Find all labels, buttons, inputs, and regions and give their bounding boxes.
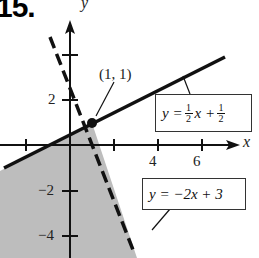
eq-mid: x + bbox=[195, 105, 216, 122]
y-tick-label-neg2: −2 bbox=[38, 182, 54, 199]
y-axis-label: y bbox=[81, 0, 88, 12]
x-tick-label-4: 4 bbox=[149, 153, 157, 170]
dashed-eq-leader-line bbox=[152, 209, 170, 230]
solid-line-equation: y = 1 2 x + 1 2 bbox=[155, 94, 252, 132]
dashed-line-equation: y = −2x + 3 bbox=[142, 178, 246, 210]
fraction: 1 2 bbox=[185, 103, 193, 124]
intersection-point bbox=[87, 118, 97, 128]
x-tick-label-6: 6 bbox=[193, 153, 201, 170]
y-tick-label-2: 2 bbox=[48, 91, 56, 108]
eq-prefix: y = bbox=[162, 105, 183, 122]
fraction: 1 2 bbox=[217, 103, 225, 124]
problem-number: 15. bbox=[0, 0, 35, 24]
intersection-label: (1, 1) bbox=[99, 66, 132, 83]
solid-eq-leader-line bbox=[183, 76, 190, 94]
y-tick-label-neg4: −4 bbox=[38, 227, 54, 244]
x-axis-label: x bbox=[243, 133, 250, 151]
point-leader-line bbox=[96, 82, 114, 116]
